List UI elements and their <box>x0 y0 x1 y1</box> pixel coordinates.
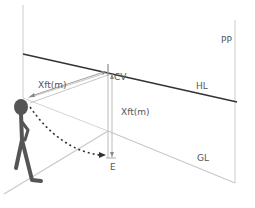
label-pp: PP <box>221 35 232 45</box>
viewer-figure <box>14 99 41 181</box>
label-cv: CV <box>114 72 127 82</box>
label-hl: HL <box>196 81 208 91</box>
arc-arrowhead <box>99 152 106 158</box>
label-distance-vertical: Xft(m) <box>121 107 150 117</box>
arrowhead-down <box>110 152 114 157</box>
ground-left-edge <box>23 98 108 131</box>
ground-diagonal <box>4 131 108 194</box>
label-e: E <box>110 162 116 172</box>
arrowhead-left <box>29 93 35 97</box>
ground-line <box>108 131 235 183</box>
figure-leg-right <box>22 140 41 181</box>
label-gl: GL <box>197 153 209 163</box>
label-distance-horizontal: Xft(m) <box>38 80 67 90</box>
horizon-line <box>23 54 237 102</box>
perspective-diagram: PP HL GL CV E Xft(m) Xft(m) <box>0 0 255 208</box>
